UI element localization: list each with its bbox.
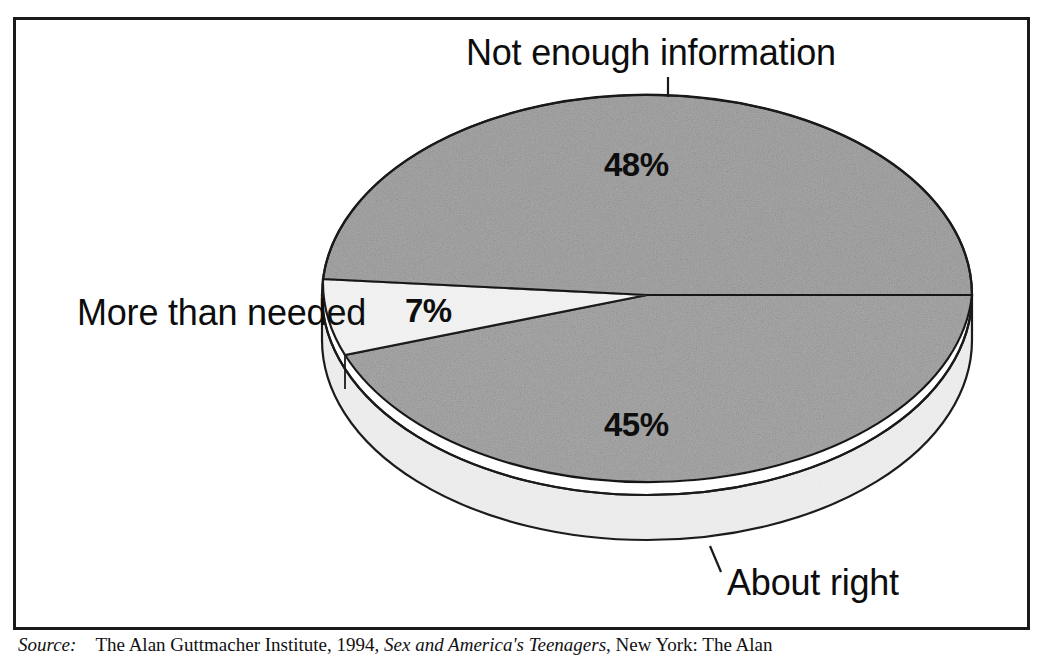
slice-label-more-than-needed: More than needed [77, 292, 366, 334]
slice-value-not-enough-information: 48% [604, 146, 669, 184]
slice-label-about-right: About right [727, 562, 899, 604]
leader-line-about-right [710, 546, 721, 572]
slice-value-about-right: 45% [604, 406, 669, 444]
slice-value-more-than-needed: 7% [405, 292, 452, 330]
source-title: Sex and America's Teenagers [384, 634, 606, 655]
source-suffix: , New York: The Alan [606, 634, 772, 655]
source-prefix: Source: [18, 634, 76, 655]
source-caption: Source: The Alan Guttmacher Institute, 1… [18, 633, 1028, 656]
slice-label-not-enough-information: Not enough information [466, 32, 836, 74]
pie-slice-not-enough-information [323, 95, 972, 295]
source-text: The Alan Guttmacher Institute, 1994, [95, 634, 379, 655]
